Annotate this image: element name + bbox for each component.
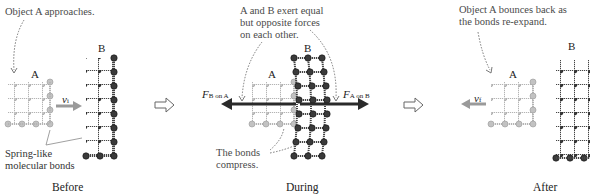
- annotation-object-a-approaches: Object A approaches.: [5, 6, 95, 18]
- annotation-line2: the bonds re-expand.: [459, 16, 567, 28]
- force-symbol: F: [343, 88, 350, 100]
- annotation-line1: Object A bounces back as: [459, 4, 567, 16]
- compress-note: The bonds compress.: [216, 147, 260, 171]
- compress-note-line2: compress.: [216, 159, 260, 171]
- object-a-lattice-after: [488, 79, 536, 127]
- annotation-line3: on each other.: [240, 29, 323, 41]
- caption-during: During: [286, 181, 319, 193]
- caption-after: After: [533, 181, 557, 193]
- bonds-note-line1: Spring-like: [5, 148, 75, 160]
- force-a-on-b-label: FA on B: [343, 84, 370, 102]
- velocity-subscript: i: [67, 97, 69, 105]
- object-a-label-during: A: [268, 68, 276, 80]
- transition-arrow-2: [404, 98, 423, 112]
- annotation-equal-opposite-forces: A and B exert equal but opposite forces …: [240, 5, 323, 41]
- compress-note-line1: The bonds: [216, 147, 260, 159]
- force-subscript: B on A: [209, 92, 229, 100]
- force-symbol: F: [202, 88, 209, 100]
- object-b-lattice-after: [553, 60, 590, 161]
- transition-arrow-1: [155, 98, 174, 112]
- object-b-label-during: B: [304, 42, 311, 54]
- object-b-lattice: [83, 55, 117, 159]
- bonds-note-line2: molecular bonds: [5, 160, 75, 172]
- annotation-bounces-back: Object A bounces back as the bonds re-ex…: [459, 4, 567, 28]
- bonds-note: Spring-like molecular bonds: [5, 148, 75, 172]
- caption-before: Before: [52, 181, 83, 193]
- force-b-on-a-label: FB on A: [202, 84, 229, 102]
- velocity-final-label: vf: [474, 88, 481, 106]
- velocity-initial-label: vi: [62, 89, 69, 107]
- annotation-line2: but opposite forces: [240, 17, 323, 29]
- object-b-label-after: B: [568, 40, 575, 52]
- force-subscript: A on B: [350, 92, 370, 100]
- annotation-line1: A and B exert equal: [240, 5, 323, 17]
- velocity-subscript: f: [479, 96, 481, 104]
- object-a-lattice: [5, 79, 53, 127]
- object-a-label: A: [31, 68, 39, 80]
- object-b-label: B: [98, 42, 105, 54]
- object-a-label-after: A: [509, 68, 517, 80]
